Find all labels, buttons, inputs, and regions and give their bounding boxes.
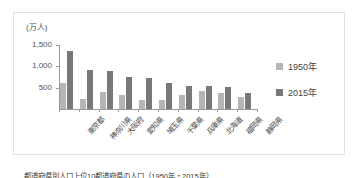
y-axis-tick-label: 1,500: [32, 40, 52, 49]
bar-group: [59, 45, 79, 109]
x-axis-label: 兵庫県: [203, 114, 226, 137]
legend-item[interactable]: 1950年: [276, 60, 317, 73]
x-axis-tick: [59, 109, 60, 112]
x-axis-tick: [257, 109, 258, 112]
bar: [186, 86, 192, 109]
legend-item-label: 1950年: [288, 60, 317, 73]
legend-item[interactable]: 2015年: [276, 86, 317, 99]
x-axis-label: 千葉県: [183, 114, 206, 137]
bar: [139, 100, 145, 109]
x-axis-tick: [237, 109, 238, 112]
bar: [60, 83, 66, 109]
bar: [126, 77, 132, 109]
bar-group: [217, 45, 237, 109]
x-axis-tick: [118, 109, 119, 112]
x-axis-label: 愛知県: [143, 114, 166, 137]
bar: [245, 93, 251, 109]
x-axis-label: 福岡県: [242, 114, 265, 137]
bar: [179, 95, 185, 109]
x-axis-tick: [79, 109, 80, 112]
x-axis-tick: [198, 109, 199, 112]
y-axis-unit-label: (万人): [26, 21, 47, 32]
bar: [87, 70, 93, 109]
bar-group: [237, 45, 257, 109]
bar: [67, 51, 73, 109]
bar: [166, 83, 172, 109]
x-axis-tick: [99, 109, 100, 112]
x-axis-label: 静岡県: [262, 114, 285, 137]
bar: [225, 87, 231, 109]
plot-area: 5001,0001,500 東京都神奈川県大阪府愛知県埼玉県千葉県兵庫県北海道福…: [59, 45, 257, 109]
bar-group: [158, 45, 178, 109]
chart-legend: 1950年2015年: [276, 60, 317, 112]
x-axis-label: 埼玉県: [163, 114, 186, 137]
figure-caption: 都道府県別人口上位10都道府県の人口（1950年・2015年）: [24, 170, 336, 178]
x-axis-tick: [158, 109, 159, 112]
x-axis-tick: [138, 109, 139, 112]
bar: [80, 99, 86, 109]
bar-group: [118, 45, 138, 109]
bar: [107, 71, 113, 109]
x-axis-tick: [217, 109, 218, 112]
bar: [206, 86, 212, 109]
x-axis-label: 東京都: [84, 114, 107, 137]
bar: [199, 91, 205, 109]
bar-group: [198, 45, 218, 109]
bar: [159, 100, 165, 109]
bar: [119, 95, 125, 109]
bar-group: [138, 45, 158, 109]
y-axis-tick-label: 1,000: [32, 61, 52, 70]
x-axis-label: 北海道: [223, 114, 246, 137]
legend-swatch-icon: [276, 63, 283, 70]
legend-item-label: 2015年: [288, 86, 317, 99]
x-axis-tick: [178, 109, 179, 112]
bar-group: [99, 45, 119, 109]
bar-group: [79, 45, 99, 109]
bar: [238, 97, 244, 109]
bar-group: [178, 45, 198, 109]
bar: [146, 78, 152, 109]
bar: [100, 92, 106, 109]
bar: [218, 93, 224, 109]
y-axis-tick-label: 500: [39, 83, 52, 92]
legend-swatch-icon: [276, 89, 283, 96]
chart-figure: (万人) 5001,0001,500 東京都神奈川県大阪府愛知県埼玉県千葉県兵庫…: [13, 12, 345, 155]
